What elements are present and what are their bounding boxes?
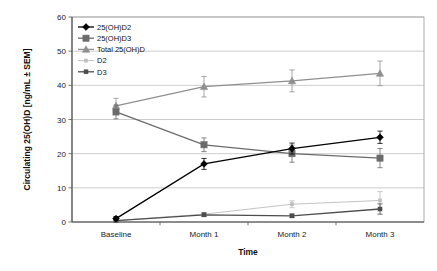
series-total-25-oh-d xyxy=(112,61,383,113)
data-point-marker xyxy=(201,142,207,148)
series-25-oh-d3 xyxy=(113,105,383,168)
y-axis-tick-label: 10 xyxy=(57,184,66,193)
data-point-marker xyxy=(113,109,119,115)
y-axis-tick-label: 20 xyxy=(57,150,66,159)
y-axis-title: Circulating 25(OH)D [ng/mL ± SEM] xyxy=(22,48,32,190)
legend-item[interactable]: D2 xyxy=(78,56,107,65)
legend-label: D2 xyxy=(97,56,107,65)
legend-label: D3 xyxy=(97,68,107,77)
data-point-marker xyxy=(378,207,382,211)
series-25-oh-d2 xyxy=(113,131,384,222)
x-axis-tick-label: Month 3 xyxy=(366,230,395,239)
series-d3 xyxy=(113,204,382,223)
y-axis-tick-label: 50 xyxy=(57,47,66,56)
legend-marker xyxy=(84,59,87,62)
x-axis-title: Time xyxy=(238,247,258,257)
data-point-marker xyxy=(377,155,383,161)
legend-marker xyxy=(83,35,89,41)
legend-label: 25(OH)D2 xyxy=(97,23,131,32)
chart-legend: 25(OH)D225(OH)D3Total 25(OH)DD2D3 xyxy=(78,23,146,77)
legend-label: Total 25(OH)D xyxy=(97,45,146,54)
data-point-marker xyxy=(378,199,381,202)
legend-marker xyxy=(84,70,88,74)
series-line xyxy=(116,209,380,221)
legend-label: 25(OH)D3 xyxy=(97,34,131,43)
x-axis: BaselineMonth 1Month 2Month 3 xyxy=(101,222,395,239)
data-point-marker xyxy=(201,161,208,168)
y-axis-tick-label: 30 xyxy=(57,116,66,125)
legend-item[interactable]: D3 xyxy=(78,68,107,77)
data-point-marker xyxy=(290,214,294,218)
legend-item[interactable]: 25(OH)D3 xyxy=(78,34,131,43)
series-line xyxy=(116,112,380,158)
data-point-marker xyxy=(290,203,293,206)
legend-marker xyxy=(83,24,90,31)
series-line xyxy=(116,73,380,105)
x-axis-tick-label: Month 1 xyxy=(190,230,219,239)
data-point-marker xyxy=(377,134,384,141)
x-axis-tick-label: Month 2 xyxy=(278,230,307,239)
legend-item[interactable]: Total 25(OH)D xyxy=(78,45,146,54)
y-axis-tick-label: 0 xyxy=(62,218,67,227)
chart-container: 0102030405060BaselineMonth 1Month 2Month… xyxy=(0,0,437,271)
x-axis-tick-label: Baseline xyxy=(101,230,132,239)
legend-item[interactable]: 25(OH)D2 xyxy=(78,23,131,32)
data-point-marker xyxy=(202,213,206,217)
y-axis-tick-label: 40 xyxy=(57,81,66,90)
line-chart: 0102030405060BaselineMonth 1Month 2Month… xyxy=(0,0,437,271)
y-axis-tick-label: 60 xyxy=(57,13,66,22)
